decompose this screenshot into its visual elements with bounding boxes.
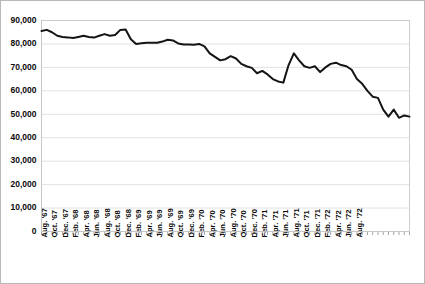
x-axis-tick-label: Feb. '68: [71, 210, 80, 238]
y-axis-tick-label: 60,000: [11, 85, 37, 95]
x-axis-tick-label: Oct. '67: [50, 210, 59, 237]
x-axis-tick-label: Jun. '72: [344, 210, 353, 238]
x-axis-tick-label: Aug. '72: [355, 208, 364, 237]
x-axis-tick-label: Apr. '72: [334, 210, 343, 237]
x-axis-tick-label: Oct. '70: [239, 210, 248, 237]
x-axis-tick-label: Apr. '70: [208, 210, 217, 237]
x-axis-tick-label: Oct. '68: [113, 210, 122, 237]
y-axis-tick-label: 90,000: [11, 15, 37, 25]
x-axis-tick-label: Jun. '70: [218, 210, 227, 238]
x-axis-tick-label: Apr. '71: [271, 210, 280, 238]
gridlines: [42, 21, 410, 232]
x-axis-tick-label: Feb. '70: [197, 210, 206, 238]
x-axis-tick-label: Jun. '69: [155, 210, 164, 238]
y-axis-tick-label: 50,000: [11, 109, 37, 119]
data-series-line: [42, 29, 410, 117]
plot-area: 90,00080,00070,00060,00050,00040,00030,0…: [1, 1, 425, 284]
x-axis-tick-label: Jun. '68: [92, 210, 101, 238]
x-axis-tick-label: Dec. '70: [250, 209, 259, 237]
x-axis-tick-label: Dec. '67: [61, 209, 70, 237]
y-axis-tick-label: 80,000: [11, 38, 37, 48]
x-axis-tick-label: Aug. '67: [40, 208, 49, 237]
chart-container: 90,00080,00070,00060,00050,00040,00030,0…: [0, 0, 425, 284]
y-axis-tick-label: 20,000: [11, 179, 37, 189]
plot-border: [42, 21, 410, 232]
x-axis-tick-label: Apr. '69: [145, 210, 154, 237]
y-axis-tick-label: 0: [32, 226, 37, 236]
x-axis-tick-label: Aug. '70: [229, 208, 238, 237]
y-axis-tick-label: 40,000: [11, 132, 37, 142]
x-axis-tick-labels: Aug. '67Oct. '67Dec. '67Feb. '68Apr. '68…: [40, 207, 364, 237]
x-axis-tick-label: Feb. '69: [134, 210, 143, 238]
x-axis-tick-label: Dec. '68: [124, 209, 133, 237]
x-axis-tick-label: Feb. '72: [323, 210, 332, 238]
x-axis-tick-label: Oct. '69: [176, 210, 185, 237]
x-axis-tick-label: Dec. '71: [313, 208, 322, 237]
y-axis-tick-label: 70,000: [11, 62, 37, 72]
x-axis-tick-label: Apr. '68: [82, 210, 91, 237]
y-axis-tick-label: 30,000: [11, 155, 37, 165]
x-axis-tick-label: Aug. '71: [292, 207, 301, 237]
y-axis-tick-label: 10,000: [11, 202, 37, 212]
x-axis-tick-label: Oct. '71: [302, 210, 311, 238]
x-axis-tick-label: Dec. '69: [187, 209, 196, 237]
y-axis-tick-labels: 90,00080,00070,00060,00050,00040,00030,0…: [11, 15, 37, 236]
x-axis-tick-label: Jun. '71: [281, 209, 290, 238]
x-axis-tick-label: Aug. '68: [103, 208, 112, 237]
x-axis-tick-label: Aug. '69: [166, 208, 175, 237]
x-axis-tick-label: Feb. '71: [260, 209, 269, 238]
line-chart: 90,00080,00070,00060,00050,00040,00030,0…: [1, 1, 425, 284]
